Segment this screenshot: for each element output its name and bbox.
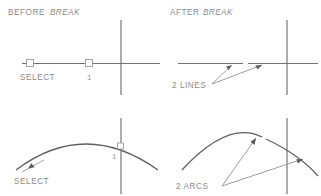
arrowhead-line-right [255, 65, 262, 70]
heading-before-plain: BEFORE [8, 8, 45, 17]
panel-after-break-arc: 2 ARCS [176, 118, 318, 194]
break-command-diagram: BEFORE BREAK SELECT 1 AFTER BREAK [0, 0, 321, 196]
pickbox-select [27, 60, 34, 67]
leader-arc-left [222, 138, 256, 186]
heading-before-emph: BREAK [50, 8, 80, 17]
arc-segment-right [266, 139, 318, 176]
heading-after-emph: BREAK [203, 8, 233, 17]
panel-before-break-line: BEFORE BREAK SELECT 1 [8, 8, 160, 95]
result-label-lines: 2 LINES [172, 81, 206, 90]
point-label-arc: 1 [112, 152, 117, 161]
leader-line-right [212, 65, 262, 84]
select-label-line: SELECT [20, 73, 55, 82]
panel-after-break-line: AFTER BREAK 2 LINES [170, 8, 318, 95]
panel-before-break-arc: SELECT 1 [14, 118, 158, 194]
heading-after-plain: AFTER [170, 8, 200, 17]
pickbox-arc-point-1 [118, 143, 124, 149]
point-label-line: 1 [87, 73, 92, 82]
result-label-arcs: 2 ARCS [176, 182, 208, 191]
leader-arc-right [222, 159, 303, 186]
pickbox-point-1 [86, 60, 93, 67]
diagram-canvas: BEFORE BREAK SELECT 1 AFTER BREAK [0, 0, 321, 196]
select-label-arc: SELECT [14, 177, 49, 186]
arc-segment-left [182, 133, 262, 170]
arc-before [16, 144, 158, 170]
